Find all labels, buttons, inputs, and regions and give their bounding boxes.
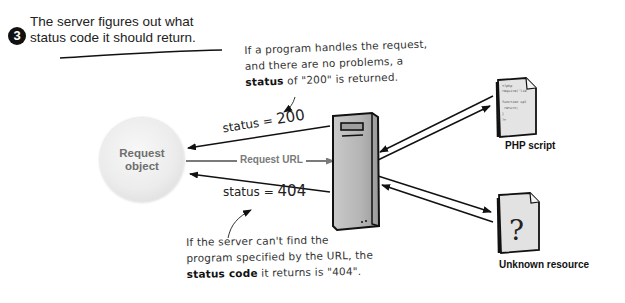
svg-text:require('lib: require('lib <box>502 89 527 93</box>
arrow-unknown-to-server <box>382 185 493 222</box>
arrow-php-to-server <box>380 96 493 152</box>
svg-text:?>: ?> <box>502 118 506 122</box>
server-tower-icon <box>333 113 379 230</box>
unknown-resource-label: Unknown resource <box>499 259 589 270</box>
svg-text:<?php: <?php <box>502 84 512 88</box>
status-404-value: 404 <box>278 182 307 200</box>
document-code-icon: <?php require('lib function upl return; … <box>497 78 536 137</box>
document-question-icon: ? <box>498 193 539 253</box>
svg-text:function upl: function upl <box>502 100 527 104</box>
php-script-label: PHP script <box>505 140 555 151</box>
status-404-prefix: status = <box>223 185 278 199</box>
status-404-label: status = 404 <box>223 182 306 200</box>
svg-text:}: } <box>502 112 504 116</box>
svg-text:?: ? <box>509 214 524 247</box>
request-object-label-line-1: Request <box>100 147 184 160</box>
request-url-label: Request URL <box>237 154 306 165</box>
note-status-404: If the server can't find the program spe… <box>186 230 407 282</box>
note-bottom-bold: status code <box>187 267 258 280</box>
request-object-label-line-2: object <box>100 160 184 173</box>
svg-text:return;: return; <box>504 106 518 110</box>
title-underline <box>60 50 222 58</box>
note-bottom-rest: it returns is "404". <box>258 265 362 279</box>
request-object-label: Request object <box>100 147 184 173</box>
arrow-server-to-unknown <box>378 176 491 212</box>
note-status-200: If a program handles the request, and th… <box>244 35 446 90</box>
note-top-rest: of "200" is returned. <box>283 71 398 87</box>
note-top-bold: status <box>245 75 284 88</box>
arrow-server-to-php <box>378 106 490 160</box>
